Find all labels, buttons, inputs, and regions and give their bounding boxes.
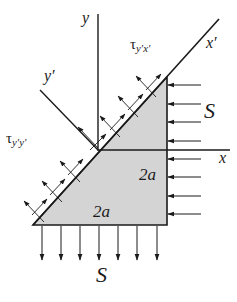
bottom-load-arrows [42, 226, 157, 260]
y-prime-axis [40, 90, 98, 150]
stress-diagram: y x x′ y′ τy′x′ τy′y′ S S 2a 2a [0, 0, 237, 302]
diagram-graphics [0, 0, 237, 302]
tau-yy-prime-label: τy′y′ [6, 131, 26, 147]
dimension-vertical-label: 2a [139, 166, 156, 183]
dimension-horizontal-label: 2a [93, 203, 110, 220]
y-prime-axis-label: y′ [44, 68, 55, 84]
tau-subscript: y′y′ [12, 136, 26, 148]
tau-yx-prime-label: τy′x′ [130, 37, 150, 53]
load-label-bottom: S [96, 264, 107, 286]
y-axis-label: y [82, 10, 89, 26]
x-axis-label: x [219, 150, 226, 166]
tau-subscript: y′x′ [136, 42, 150, 54]
load-label-right: S [204, 100, 215, 122]
x-prime-axis-label: x′ [206, 35, 217, 51]
